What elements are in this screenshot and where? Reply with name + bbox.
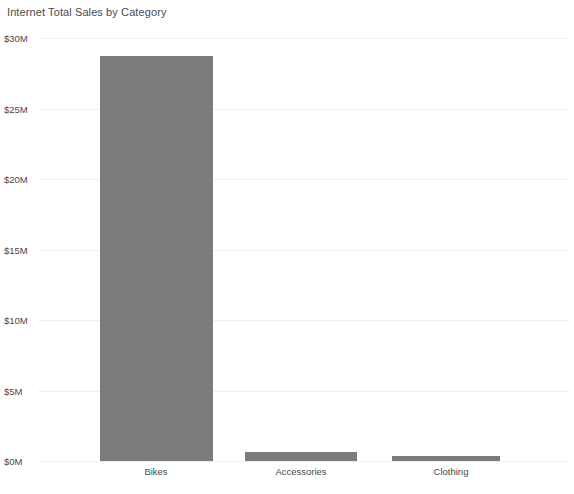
y-axis-tick-label: $5M <box>4 385 36 396</box>
gridline <box>38 38 570 39</box>
y-axis-tick-label: $30M <box>4 33 36 44</box>
y-axis-tick-label: $0M <box>4 456 36 467</box>
x-axis-tick-label: Clothing <box>434 466 469 477</box>
gridline <box>38 461 570 462</box>
plot-area: $0M$5M$10M$15M$20M$25M$30M BikesAccessor… <box>0 0 574 494</box>
y-axis-tick-label: $10M <box>4 315 36 326</box>
x-axis-tick-label: Accessories <box>275 466 326 477</box>
y-axis-tick-label: $20M <box>4 174 36 185</box>
y-axis-tick-label: $25M <box>4 103 36 114</box>
bar-accessories[interactable] <box>245 452 357 461</box>
bar-bikes[interactable] <box>100 56 213 461</box>
bar-clothing[interactable] <box>392 456 500 461</box>
chart-widget: Internet Total Sales by Category $0M$5M$… <box>0 0 574 494</box>
x-axis-tick-label: Bikes <box>144 466 167 477</box>
y-axis-tick-label: $15M <box>4 244 36 255</box>
